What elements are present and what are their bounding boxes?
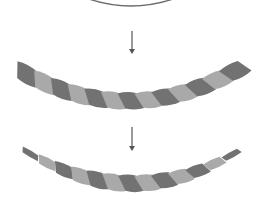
- arrow-down-icon: [129, 127, 135, 151]
- arrow-down-icon: [129, 31, 135, 54]
- twisted-rope: [17, 61, 251, 110]
- rope-strand: [55, 161, 73, 179]
- profile-arc: [86, 0, 176, 6]
- tapered-twisted-rope: [22, 146, 241, 192]
- rope-strand: [39, 154, 55, 171]
- rope-strand: [22, 146, 38, 161]
- rope-strand: [17, 61, 36, 88]
- rope-diagram: [0, 0, 260, 203]
- rope-strand: [221, 149, 241, 161]
- rope-strand: [34, 70, 54, 95]
- rope-strand: [71, 166, 91, 185]
